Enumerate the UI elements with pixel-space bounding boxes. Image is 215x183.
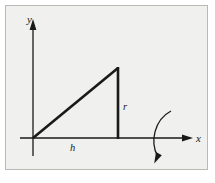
base-dimension-label: h [70,142,75,153]
y-axis-label: y [26,13,32,25]
geometry-figure: y x h r [0,0,215,183]
figure-container: y x h r [0,0,215,183]
figure-panel [6,6,208,170]
x-axis-label: x [195,132,201,144]
